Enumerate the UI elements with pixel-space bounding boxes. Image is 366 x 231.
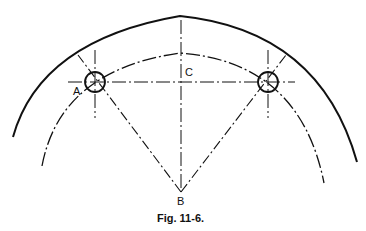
outer-arc (13, 16, 357, 162)
label-b: B (177, 196, 184, 207)
label-c: C (185, 67, 193, 78)
radial-line-right (181, 55, 286, 192)
radial-line-left (78, 55, 181, 192)
figure-caption: Fig. 11-6. (157, 213, 204, 224)
pitch-circle-arc (42, 53, 324, 183)
label-a: A (73, 86, 80, 97)
